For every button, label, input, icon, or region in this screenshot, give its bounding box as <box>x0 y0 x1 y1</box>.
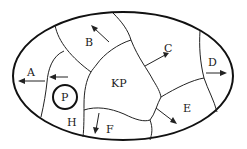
label-e: E <box>183 102 191 115</box>
arrow-f <box>96 113 99 130</box>
arrow-e <box>156 108 173 121</box>
label-kp: KP <box>111 77 127 90</box>
arrow-a-head <box>18 78 25 84</box>
label-f: F <box>106 123 114 136</box>
label-b: B <box>85 36 93 49</box>
label-p: P <box>61 91 69 104</box>
label-c: C <box>164 42 172 55</box>
label-a: A <box>26 66 36 79</box>
arrow-f-head <box>93 127 99 134</box>
boundary-f-kp <box>84 108 152 140</box>
boundary-c-e <box>161 78 204 97</box>
boundary-e-kp <box>150 97 161 120</box>
boundary-b-kp <box>91 40 131 72</box>
arrow-c <box>145 55 165 66</box>
arrow-e-head <box>170 117 177 124</box>
boundary-h-kp <box>83 72 91 137</box>
boundary-d <box>200 31 217 112</box>
label-h: H <box>67 116 77 129</box>
arrow-d-head <box>220 70 227 76</box>
arrow-h-head <box>49 74 56 80</box>
plate-diagram: A B C D E F H KP P <box>0 0 247 149</box>
label-d: D <box>208 56 217 69</box>
arrow-b <box>94 28 109 42</box>
